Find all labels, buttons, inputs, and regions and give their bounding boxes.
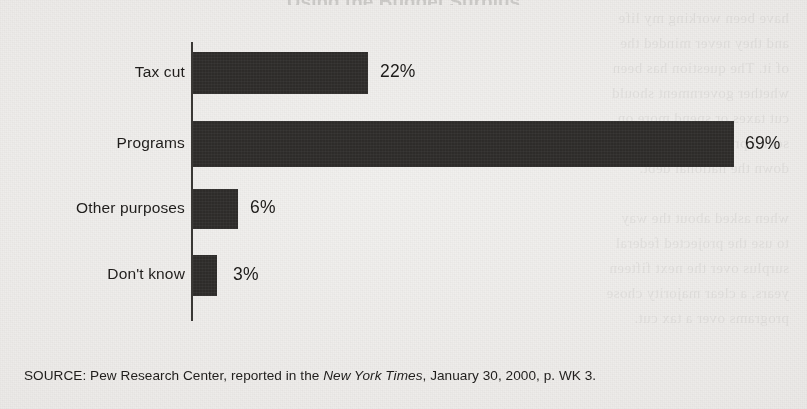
bar-row: Programs 69% [0,121,807,167]
source-publication: New York Times [323,368,422,383]
value-label-other-purposes: 6% [250,197,276,218]
bar-row: Don't know 3% [0,255,807,296]
horizontal-bar-chart: Tax cut 22% Programs 69% Other purposes … [0,0,807,409]
bar-programs [193,121,734,167]
value-label-dont-know: 3% [233,264,259,285]
bar-row: Other purposes 6% [0,189,807,229]
bar-dont-know [193,255,217,296]
source-note: SOURCE: Pew Research Center, reported in… [24,368,596,383]
value-label-programs: 69% [745,133,781,154]
bar-tax-cut [193,52,368,94]
source-prefix: SOURCE: Pew Research Center, reported in… [24,368,323,383]
bar-other-purposes [193,189,238,229]
category-label-tax-cut: Tax cut [135,63,185,81]
category-label-other-purposes: Other purposes [76,199,185,217]
source-suffix: , January 30, 2000, p. WK 3. [422,368,596,383]
category-label-dont-know: Don't know [107,265,185,283]
scanned-page: Using the Budget Surplus have been worki… [0,0,807,409]
category-label-programs: Programs [117,134,185,152]
bar-row: Tax cut 22% [0,52,807,94]
value-label-tax-cut: 22% [380,61,416,82]
